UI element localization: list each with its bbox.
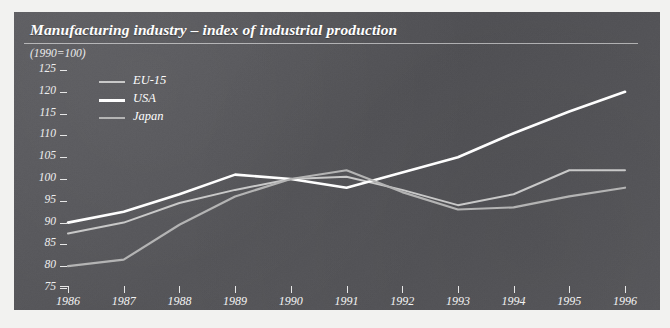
y-axis-tick-label: 115 [22,106,56,118]
y-axis-tick-mark [60,244,67,245]
x-axis-tick-mark [402,286,403,293]
legend-label: EU-15 [133,73,166,88]
series-line-japan [68,170,625,266]
y-axis-tick-mark [60,92,67,93]
x-axis-tick-mark [625,286,626,293]
x-axis-tick-label: 1988 [153,294,205,309]
y-axis-tick-label: 90 [22,215,56,227]
y-axis-tick-mark [60,223,67,224]
x-axis-tick-label: 1994 [488,294,540,309]
x-axis-tick-mark [68,286,69,293]
y-axis-tick-mark [60,201,67,202]
x-axis-tick-mark [124,286,125,293]
y-axis-tick-label: 100 [22,171,56,183]
y-axis-tick-label: 125 [22,62,56,74]
x-axis-tick-mark [458,286,459,293]
x-axis-tick-mark [235,286,236,293]
legend-label: USA [133,91,156,106]
y-axis-tick-mark [60,70,67,71]
x-axis-tick-label: 1990 [265,294,317,309]
y-axis-tick-label: 75 [22,280,56,292]
x-axis-tick-mark [569,286,570,293]
y-axis-tick-label: 80 [22,258,56,270]
x-axis-tick-label: 1992 [376,294,428,309]
y-axis-tick-mark [60,135,67,136]
plot-svg [14,12,660,310]
x-axis-tick-label: 1993 [432,294,484,309]
y-axis-tick-label: 95 [22,193,56,205]
plot-area [14,12,660,310]
y-axis-tick-label: 120 [22,84,56,96]
y-axis-tick-mark [60,157,67,158]
axis-corner-bracket [60,286,68,287]
x-axis-tick-mark [347,286,348,293]
y-axis-tick-mark [60,288,67,289]
x-axis-tick-label: 1989 [209,294,261,309]
x-axis-tick-mark [179,286,180,293]
y-axis-tick-mark [60,114,67,115]
x-axis-tick-mark [514,286,515,293]
y-axis-tick-label: 85 [22,236,56,248]
chart-figure: Manufacturing industry – index of indust… [0,0,670,328]
y-axis-tick-mark [60,179,67,180]
y-axis-tick-label: 105 [22,149,56,161]
x-axis-tick-label: 1996 [599,294,651,309]
x-axis-tick-label: 1986 [42,294,94,309]
x-axis-tick-label: 1995 [543,294,595,309]
y-axis-tick-label: 110 [22,127,56,139]
y-axis-tick-mark [60,266,67,267]
legend-swatch [99,81,125,83]
legend-label: Japan [133,109,164,124]
x-axis-tick-mark [291,286,292,293]
legend-swatch [99,117,125,119]
chart-panel: Manufacturing industry – index of indust… [14,12,660,310]
x-axis-tick-label: 1987 [98,294,150,309]
x-axis-tick-label: 1991 [321,294,373,309]
legend-swatch [99,99,125,102]
